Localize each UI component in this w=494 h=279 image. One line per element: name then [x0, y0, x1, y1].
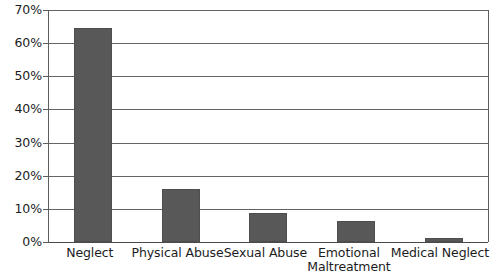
bar-slot — [225, 10, 313, 242]
y-axis-tick-label: 40% — [0, 103, 42, 116]
bar-slot — [400, 10, 488, 242]
x-axis-category-label-line: Maltreatment — [307, 260, 391, 274]
x-axis-category-label: Neglect — [48, 246, 132, 274]
x-axis-category-label: EmotionalMaltreatment — [307, 246, 391, 274]
y-axis-tick-label: 0% — [0, 236, 42, 249]
y-axis-tick-label: 10% — [0, 203, 42, 216]
bar-slot — [49, 10, 137, 242]
x-axis-category-label: Sexual Abuse — [224, 246, 308, 274]
x-axis-labels: NeglectPhysical AbuseSexual AbuseEmotion… — [48, 246, 489, 274]
y-axis-tick-label: 30% — [0, 137, 42, 150]
bar[interactable] — [249, 213, 287, 242]
x-axis-category-label: Physical Abuse — [132, 246, 224, 274]
bar[interactable] — [337, 221, 375, 242]
x-axis-category-label-line: Medical Neglect — [391, 246, 489, 260]
y-axis-tick-label: 50% — [0, 70, 42, 83]
bar-series — [49, 10, 488, 242]
bar-slot — [137, 10, 225, 242]
bar-slot — [312, 10, 400, 242]
axis-baseline — [49, 242, 488, 243]
bar[interactable] — [162, 189, 200, 242]
bar[interactable] — [425, 238, 463, 242]
x-axis-category-label-line: Neglect — [48, 246, 132, 260]
x-axis-category-label-line: Physical Abuse — [132, 246, 224, 260]
bar-chart: 70%60%50%40%30%20%10%0% NeglectPhysical … — [0, 0, 494, 279]
y-axis-tick-label: 60% — [0, 37, 42, 50]
y-axis-tick-label: 70% — [0, 4, 42, 17]
x-axis-category-label: Medical Neglect — [391, 246, 489, 274]
bar[interactable] — [74, 28, 112, 242]
y-axis-tick-label: 20% — [0, 170, 42, 183]
x-axis-category-label-line: Sexual Abuse — [224, 246, 308, 260]
plot-area — [48, 10, 489, 242]
x-axis-category-label-line: Emotional — [307, 246, 391, 260]
